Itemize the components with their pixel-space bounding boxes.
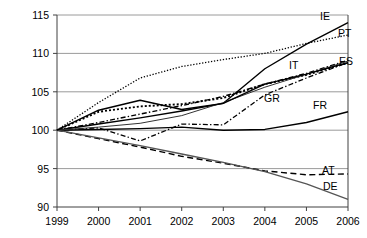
series-label-gr: GR [264, 92, 280, 104]
series-label-ie: IE [320, 10, 330, 22]
y-tick-label: 110 [32, 47, 49, 59]
line-chart-figure: 9095100105110115 19992000200120022003200… [0, 0, 367, 238]
series-label-at: AT [322, 164, 335, 176]
series-line-solid_peak [57, 63, 348, 131]
series-line-es [57, 60, 348, 130]
series-label-pt: PT [338, 27, 352, 39]
series-line-it [57, 63, 348, 131]
series-label-de: DE [323, 180, 338, 192]
x-tick-label: 2001 [128, 215, 152, 227]
series-line-solid_mid [57, 61, 348, 130]
x-tick-label: 1999 [45, 215, 69, 227]
y-tick-label: 105 [31, 86, 49, 98]
data-series [57, 23, 348, 200]
series-line-ie [57, 23, 348, 131]
y-tick-label: 115 [32, 9, 49, 21]
y-tick-label: 90 [37, 201, 49, 213]
x-axis-ticks: 19992000200120022003200420052006 [45, 207, 360, 227]
y-tick-label: 100 [31, 124, 49, 136]
x-tick-label: 2000 [87, 215, 111, 227]
series-label-it: IT [289, 59, 299, 71]
chart-canvas: 9095100105110115 19992000200120022003200… [0, 0, 367, 238]
series-labels: IEPTESITGRFRATDE [264, 10, 353, 192]
x-tick-label: 2005 [295, 215, 319, 227]
y-tick-label: 95 [37, 163, 49, 175]
series-label-fr: FR [313, 99, 327, 111]
x-tick-label: 2003 [212, 215, 236, 227]
gridlines [57, 15, 348, 169]
x-tick-label: 2006 [336, 215, 360, 227]
x-tick-label: 2004 [253, 215, 277, 227]
x-tick-label: 2002 [170, 215, 194, 227]
series-label-es: ES [339, 55, 353, 67]
series-line-de [57, 130, 348, 199]
series-line-pt [57, 35, 348, 130]
y-axis-ticks: 9095100105110115 [31, 9, 57, 213]
series-line-at [57, 130, 348, 175]
